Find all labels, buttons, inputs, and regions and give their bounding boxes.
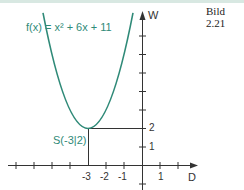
- x-axis-arrow-icon: [190, 163, 198, 169]
- function-label: f(x) = x² + 6x + 11: [26, 21, 112, 33]
- y-tick-label: 2: [149, 122, 155, 133]
- y-tick-label: 1: [149, 141, 155, 152]
- y-axis-name: W: [148, 9, 158, 21]
- x-tick-label: -1: [118, 171, 127, 182]
- vertex-guides: [89, 129, 143, 166]
- x-tick-label: -3: [82, 171, 91, 182]
- x-tick-label: 1: [158, 171, 164, 182]
- x-axis: [8, 162, 198, 169]
- figure-label: Bild 2.21: [206, 5, 244, 29]
- x-tick-label: -2: [100, 171, 109, 182]
- x-axis-name: D: [188, 171, 196, 183]
- y-axis-arrow-icon: [140, 11, 146, 20]
- y-axis: [139, 11, 146, 190]
- vertex-label: S(-3|2): [53, 134, 86, 146]
